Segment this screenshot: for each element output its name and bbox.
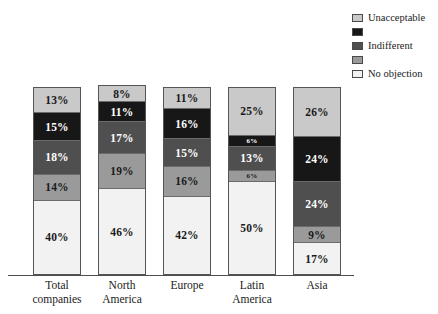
bar-segment: 24% xyxy=(294,181,340,226)
bar-segment-label: 42% xyxy=(175,229,199,241)
bar-europe[interactable]: 11%16%15%16%42% xyxy=(163,87,211,275)
bar-segment: 14% xyxy=(34,174,80,200)
bar-segment-label: 14% xyxy=(45,181,69,193)
bar-segment-label: 13% xyxy=(240,152,264,164)
plot-area: 13%15%18%14%40%8%11%17%19%46%11%16%15%16… xyxy=(0,60,438,276)
bar-segment-label: 6% xyxy=(247,137,258,145)
bar-north-america[interactable]: 8%11%17%19%46% xyxy=(98,85,146,275)
bar-segment-label: 25% xyxy=(240,105,264,117)
stacked-bar-chart: UnacceptableIndifferentNo objection 13%1… xyxy=(0,0,438,314)
bar-segment: 13% xyxy=(34,88,80,112)
bar-latin-america[interactable]: 25%6%13%6%50% xyxy=(228,87,276,275)
bar-segment: 17% xyxy=(294,242,340,274)
bar-segment-label: 13% xyxy=(45,94,69,106)
bar-segment-label: 24% xyxy=(305,198,329,210)
bar-segment-label: 17% xyxy=(110,132,134,144)
x-axis-line xyxy=(8,275,354,276)
bar-segment-label: 6% xyxy=(247,172,258,180)
bar-segment: 17% xyxy=(99,121,145,153)
bar-segment: 6% xyxy=(229,135,275,146)
bar-asia[interactable]: 26%24%24%9%17% xyxy=(293,87,341,275)
legend-item-label: Indifferent xyxy=(368,40,413,51)
legend-item[interactable]: Unacceptable xyxy=(352,11,438,24)
bar-segment-label: 46% xyxy=(110,226,134,238)
bar-segment: 6% xyxy=(229,170,275,181)
bar-segment: 19% xyxy=(99,153,145,188)
legend-swatch-icon xyxy=(352,14,363,22)
bar-segment-label: 19% xyxy=(110,165,134,177)
bar-segment: 24% xyxy=(294,136,340,181)
x-axis-label-asia: Asia xyxy=(272,278,362,292)
bar-segment: 25% xyxy=(229,88,275,135)
bar-segment: 42% xyxy=(164,196,210,274)
bar-segment-label: 9% xyxy=(308,229,326,241)
x-axis-label-line: Asia xyxy=(272,278,362,292)
x-axis-labels: TotalcompaniesNorthAmericaEuropeLatinAme… xyxy=(0,278,438,314)
bar-segment: 15% xyxy=(164,138,210,166)
legend-item-label: Unacceptable xyxy=(368,12,425,23)
bar-segment-label: 26% xyxy=(305,106,329,118)
bar-segment: 16% xyxy=(164,108,210,138)
bar-total-companies[interactable]: 13%15%18%14%40% xyxy=(33,87,81,275)
bar-segment: 11% xyxy=(164,88,210,108)
bar-segment-label: 18% xyxy=(45,151,69,163)
bar-segment: 15% xyxy=(34,112,80,140)
legend-swatch-icon xyxy=(352,42,363,50)
bar-segment-label: 8% xyxy=(113,88,131,100)
bar-segment: 50% xyxy=(229,181,275,274)
bar-segment-label: 16% xyxy=(175,175,199,187)
bar-segment: 8% xyxy=(99,86,145,101)
legend-swatch-icon xyxy=(352,28,363,36)
bar-segment-label: 24% xyxy=(305,153,329,165)
x-axis-label-line: America xyxy=(207,292,297,306)
bar-segment-label: 40% xyxy=(45,231,69,243)
bar-segment-label: 50% xyxy=(240,222,264,234)
x-axis-label-line: America xyxy=(77,292,167,306)
bar-segment-label: 15% xyxy=(175,147,199,159)
legend-item[interactable] xyxy=(352,25,438,38)
legend-item[interactable]: Indifferent xyxy=(352,39,438,52)
bar-segment: 26% xyxy=(294,88,340,136)
bar-segment: 16% xyxy=(164,166,210,196)
bar-segment: 11% xyxy=(99,101,145,121)
bar-segment: 40% xyxy=(34,200,80,274)
bar-segment-label: 15% xyxy=(45,121,69,133)
bar-segment: 46% xyxy=(99,188,145,274)
bar-segment-label: 17% xyxy=(305,253,329,265)
bar-segment: 13% xyxy=(229,146,275,170)
bar-segment-label: 11% xyxy=(176,92,199,104)
bar-segment: 9% xyxy=(294,226,340,243)
bar-segment-label: 11% xyxy=(111,106,134,118)
bar-segment-label: 16% xyxy=(175,118,199,130)
bar-segment: 18% xyxy=(34,140,80,173)
